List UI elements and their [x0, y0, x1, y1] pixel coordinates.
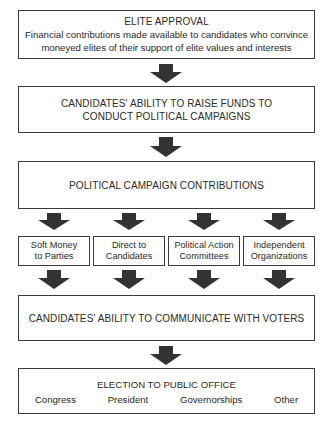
channel-soft-money-box: Soft Money to Parties	[18, 236, 90, 266]
office-governorships: Governorships	[180, 394, 242, 405]
office-congress: Congress	[35, 394, 76, 405]
channel-pac-box: Political Action Committees	[168, 236, 240, 266]
campaign-contributions-box: POLITICAL CAMPAIGN CONTRIBUTIONS	[18, 161, 315, 209]
channel-line2: to Parties	[35, 251, 74, 263]
channel-line2: Organizations	[251, 251, 308, 263]
elite-approval-line1: Financial contributions made available t…	[25, 28, 308, 41]
elite-approval-title: ELITE APPROVAL	[124, 15, 209, 28]
raise-funds-box: CANDIDATES' ABILITY TO RAISE FUNDS TO CO…	[18, 86, 315, 133]
elite-approval-line2: moneyed elites of their support of elite…	[41, 41, 291, 54]
elite-approval-box: ELITE APPROVAL Financial contributions m…	[18, 10, 315, 59]
election-title: ELECTION TO PUBLIC OFFICE	[97, 378, 236, 391]
raise-funds-line2: CONDUCT POLITICAL CAMPAIGNS	[82, 110, 250, 123]
channel-line1: Direct to	[112, 240, 146, 252]
campaign-contributions-label: POLITICAL CAMPAIGN CONTRIBUTIONS	[69, 179, 264, 192]
channel-line2: Committees	[179, 251, 228, 263]
channel-independent-box: Independent Organizations	[243, 236, 315, 266]
office-list: Congress President Governorships Other	[19, 394, 314, 405]
raise-funds-line1: CANDIDATES' ABILITY TO RAISE FUNDS TO	[61, 97, 272, 110]
channel-direct-box: Direct to Candidates	[93, 236, 165, 266]
election-box: ELECTION TO PUBLIC OFFICE Congress Presi…	[18, 368, 315, 414]
channel-line2: Candidates	[106, 251, 152, 263]
channel-line1: Independent	[253, 240, 304, 252]
communicate-label: CANDIDATES' ABILITY TO COMMUNICATE WITH …	[29, 312, 305, 325]
channel-line1: Soft Money	[31, 240, 77, 252]
office-president: President	[108, 394, 149, 405]
communicate-box: CANDIDATES' ABILITY TO COMMUNICATE WITH …	[18, 295, 315, 341]
office-other: Other	[274, 394, 298, 405]
channel-line1: Political Action	[174, 240, 233, 252]
